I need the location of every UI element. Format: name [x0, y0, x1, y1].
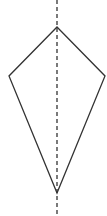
kite-diagram [0, 0, 107, 216]
